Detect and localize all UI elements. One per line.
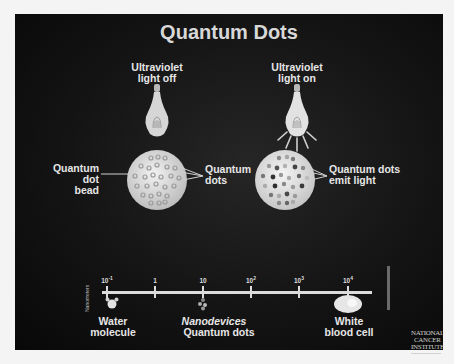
page-title: Quantum Dots — [15, 22, 443, 43]
quantum-dot-bead-unlit — [101, 148, 221, 212]
quantum-dots-label: Quantum dots — [205, 164, 251, 186]
tick-label: 10-1 — [101, 275, 113, 284]
uv-off-line2: light off — [112, 73, 202, 84]
tick-label: 1 — [153, 275, 157, 284]
bead-label-line2: bead — [35, 185, 99, 196]
nanometers-axis-label: Nanometers — [84, 285, 90, 312]
quantum-dot-bead-label: Quantum dot bead — [35, 163, 99, 196]
emit-label-line2: emit light — [329, 175, 400, 186]
quantum-dots-emit-light-label: Quantum dots emit light — [329, 164, 400, 186]
logo-underline — [411, 353, 441, 354]
water-label-line2: molecule — [85, 327, 141, 338]
credit-line — [387, 266, 390, 310]
uv-off-heading: Ultraviolet light off — [112, 62, 202, 84]
nanodevices-line2: Quantum dots — [171, 327, 267, 338]
tick-mark — [298, 286, 300, 298]
water-molecule-icon — [105, 297, 119, 309]
tick-mark — [250, 286, 252, 298]
wbc-label-line2: blood cell — [321, 327, 377, 338]
dots-label-line2: dots — [205, 175, 251, 186]
light-bulb-off-icon — [142, 84, 172, 140]
nanodevices-label: Nanodevices Quantum dots — [171, 316, 267, 338]
scale-axis — [102, 291, 372, 294]
water-molecule-label: Water molecule — [85, 316, 141, 338]
bead-label-line1: Quantum dot — [35, 163, 99, 185]
white-blood-cell-label: White blood cell — [321, 316, 377, 338]
light-bulb-on-icon — [277, 84, 317, 152]
white-blood-cell-icon — [333, 294, 363, 314]
tick-label: 102 — [246, 275, 256, 284]
uv-on-heading: Ultraviolet light on — [252, 62, 342, 84]
tick-label: 104 — [343, 275, 353, 284]
diagram-panel: Quantum Dots Ultraviolet light off Ultra… — [15, 14, 443, 350]
quantum-dots-icon — [197, 297, 209, 311]
tick-mark — [154, 286, 156, 298]
nci-logo: NATIONAL CANCER INSTITUTE — [411, 330, 444, 351]
logo-line3: INSTITUTE — [411, 344, 444, 351]
tick-label: 103 — [294, 275, 304, 284]
uv-on-line2: light on — [252, 73, 342, 84]
tick-label: 10 — [199, 275, 206, 284]
